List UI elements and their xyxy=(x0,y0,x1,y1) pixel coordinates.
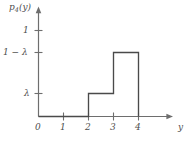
x-axis-title: y xyxy=(178,123,183,132)
y-tick-label-one-minus-lambda: 1 − λ xyxy=(3,48,28,57)
y-axis xyxy=(36,7,42,117)
density-plot-figure: p4(y) 1 1 − λ λ 0 1 2 3 4 y xyxy=(0,0,191,144)
density-step-curve xyxy=(39,53,139,117)
x-tick-label-0: 0 xyxy=(35,123,41,132)
x-tick-label-1: 1 xyxy=(60,123,66,132)
y-tick-label-1: 1 xyxy=(23,26,29,35)
y-tick-label-lambda: λ xyxy=(24,89,30,98)
x-tick-label-2: 2 xyxy=(85,123,91,132)
plot-canvas xyxy=(0,0,191,144)
y-axis-title: p4(y) xyxy=(9,3,31,13)
x-tick-label-4: 4 xyxy=(135,123,141,132)
x-tick-label-3: 3 xyxy=(110,123,116,132)
y-axis-title-argument: (y) xyxy=(19,2,31,12)
